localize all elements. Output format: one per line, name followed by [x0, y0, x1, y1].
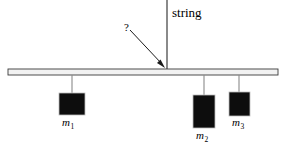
mass-2-subscript: 2 — [204, 135, 208, 144]
mass-3-block — [229, 92, 250, 116]
mass-1-subscript: 1 — [70, 122, 74, 131]
mass-1-block — [59, 93, 85, 115]
mass-1-label: m1 — [62, 117, 74, 128]
mass-1-symbol: m — [62, 116, 70, 128]
mass-1-group — [59, 75, 85, 115]
question-mark-annotation: ? — [124, 22, 129, 33]
string-annotation-label: string — [172, 6, 202, 19]
mass-2-symbol: m — [196, 129, 204, 141]
mass-3-symbol: m — [232, 116, 240, 128]
mass-2-label: m2 — [196, 130, 208, 141]
physics-diagram-figure: string ? m1 m2 m3 — [0, 0, 285, 148]
mass-2-group — [193, 75, 215, 128]
mass-3-subscript: 3 — [240, 122, 244, 131]
pointer-arrow-icon — [130, 30, 165, 68]
mass-3-label: m3 — [232, 117, 244, 128]
mass-3-group — [229, 75, 250, 116]
mass-2-block — [193, 95, 215, 128]
horizontal-bar — [8, 69, 278, 75]
